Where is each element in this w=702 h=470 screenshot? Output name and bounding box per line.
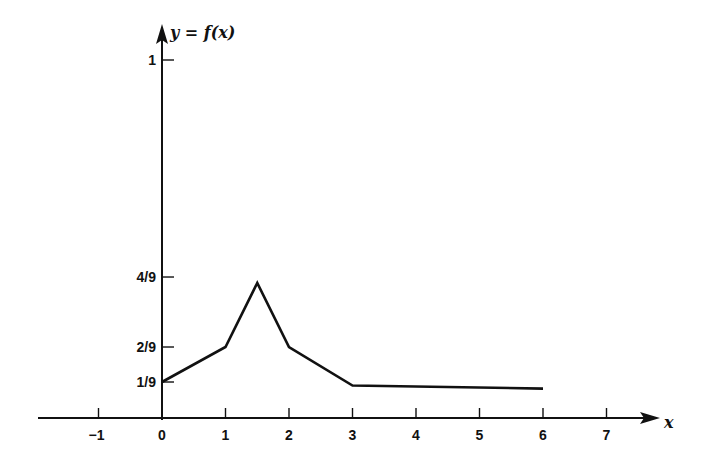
x-tick-label: 6: [539, 427, 547, 443]
x-tick-label: 2: [285, 427, 293, 443]
x-tick-label: 0: [158, 427, 166, 443]
x-tick-label: 1: [222, 427, 230, 443]
y-tick-label: 1: [148, 52, 156, 68]
x-tick-label: 4: [412, 427, 420, 443]
chart: −101234567 x 1/92/94/91 y = f(x): [0, 0, 702, 470]
x-axis: −101234567 x: [38, 408, 674, 443]
x-tick-label: 3: [349, 427, 357, 443]
y-tick-label: 4/9: [137, 269, 157, 285]
x-tick-label: −1: [89, 427, 105, 443]
x-tick-label: 5: [476, 427, 484, 443]
x-axis-label: x: [663, 413, 674, 432]
plot-area: [162, 283, 543, 389]
y-tick-label: 2/9: [137, 339, 157, 355]
y-axis-label: y = f(x): [169, 23, 235, 42]
y-axis: 1/92/94/91 y = f(x): [137, 23, 236, 420]
x-tick-label: 7: [603, 427, 611, 443]
series-line-f: [162, 283, 543, 389]
y-tick-label: 1/9: [137, 374, 157, 390]
